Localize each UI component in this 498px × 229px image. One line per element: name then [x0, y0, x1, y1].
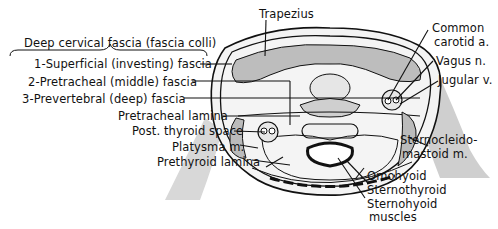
muscles-label: muscles	[369, 211, 417, 223]
omohyoid-label: Omohyoid	[367, 170, 427, 182]
sternothyroid-label: Sternothyroid	[367, 184, 447, 196]
platysma-label: Platysma m.	[172, 141, 244, 153]
fascia-layer-2-label: 2-Pretracheal (middle) fascia	[28, 76, 197, 88]
common-carotid-label-line2: carotid a.	[434, 36, 489, 48]
sternocleidomastoid-label-line1: Sternocleido-	[400, 134, 478, 146]
group-heading: Deep cervical fascia (fascia colli)	[24, 37, 216, 49]
fascia-layer-3-label: 3-Prevertebral (deep) fascia	[22, 93, 186, 105]
prethyroid-lamina-label: Prethyroid lamina	[157, 156, 260, 168]
sternohyoid-label: Sternohyoid	[367, 198, 437, 210]
vagus-label: Vagus n.	[436, 55, 486, 67]
trapezius-label: Trapezius	[259, 8, 314, 20]
pretracheal-lamina-label: Pretracheal lamina	[118, 110, 228, 122]
jugular-label: Jugular v.	[438, 74, 492, 86]
common-carotid-label-line1: Common	[432, 22, 484, 34]
trachea	[307, 143, 352, 166]
sternocleidomastoid-label-line2: mastoid m.	[402, 148, 468, 160]
post-thyroid-space-label: Post. thyroid space	[132, 125, 243, 137]
vertebral-arch	[300, 99, 360, 118]
fascia-layer-1-label: 1-Superficial (investing) fascia	[34, 58, 212, 70]
